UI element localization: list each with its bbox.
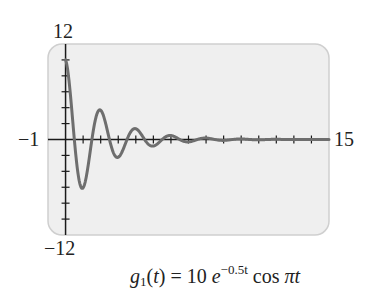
cos-function: cos: [253, 265, 280, 287]
x-max-label: 15: [334, 129, 354, 149]
exponent: −0.5t: [221, 262, 248, 277]
function-caption: g1(t) = 10 e−0.5tcosπt: [130, 262, 300, 290]
y-max-label: 12: [53, 21, 73, 41]
plot-area: [0, 0, 366, 307]
y-min-label: −12: [44, 238, 75, 258]
x-min-label: −1: [18, 129, 39, 149]
function-name: g: [130, 265, 140, 287]
variable-2: t: [294, 265, 300, 287]
exp-base: e: [212, 265, 221, 287]
equals-coefficient: = 10: [165, 265, 211, 287]
pi-symbol: π: [284, 265, 294, 287]
